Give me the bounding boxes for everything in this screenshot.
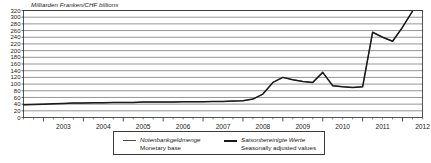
y-tick-label: 80	[14, 88, 21, 94]
y-tick-label: 60	[14, 95, 21, 101]
chart-legend: Notenbankgeldmenge Monetary base Saisonb…	[113, 131, 325, 155]
y-tick-label: 20	[14, 108, 21, 114]
y-tick-label: 220	[10, 41, 21, 47]
y-tick-label: 260	[10, 28, 21, 34]
y-tick-label: 120	[10, 74, 21, 80]
y-tick-label: 140	[10, 68, 21, 74]
x-tick-label: 2005	[136, 123, 151, 130]
legend-line-thick-icon	[224, 140, 237, 142]
y-tick-label: 320	[10, 8, 21, 14]
x-tick-label: 2010	[335, 123, 350, 130]
legend-label-de-0: Notenbankgeldmenge	[140, 136, 201, 144]
monetary-base-chart: Milliarden Franken/CHF billions 02040608…	[0, 0, 431, 163]
legend-line-thin-icon	[123, 140, 136, 141]
x-tick-label-group: 2003200420052006200720082009201020112012	[56, 123, 430, 130]
x-tick-label: 2012	[415, 123, 430, 130]
y-tick-label: 200	[10, 48, 21, 54]
x-tick-label: 2003	[56, 123, 71, 130]
legend-label-de-1: Saisonbereinigte Werte	[241, 136, 316, 144]
y-tick-label: 40	[14, 101, 21, 107]
x-tick-label: 2008	[256, 123, 271, 130]
legend-item-seasonally-adjusted: Saisonbereinigte Werte Seasonally adjust…	[224, 136, 316, 151]
y-tick-label: 180	[10, 54, 21, 60]
x-tick-label: 2011	[376, 123, 391, 130]
x-tick-label: 2009	[295, 123, 310, 130]
x-tick-group	[24, 118, 423, 122]
y-tick-label: 240	[10, 34, 21, 40]
y-tick-label: 300	[10, 14, 21, 20]
x-tick-label: 2004	[96, 123, 111, 130]
x-tick-label: 2006	[176, 123, 191, 130]
y-tick-label: 0	[17, 115, 21, 121]
y-tick-label-group: 0204060801001201401601802002202402602803…	[10, 8, 21, 121]
legend-item-monetary-base: Notenbankgeldmenge Monetary base	[123, 136, 201, 151]
y-tick-label: 160	[10, 61, 21, 67]
legend-label-en-0: Monetary base	[140, 144, 201, 152]
legend-label-en-1: Seasonally adjusted values	[241, 144, 316, 152]
y-tick-label: 280	[10, 21, 21, 27]
x-tick-label: 2007	[216, 123, 231, 130]
y-tick-label: 100	[10, 81, 21, 87]
